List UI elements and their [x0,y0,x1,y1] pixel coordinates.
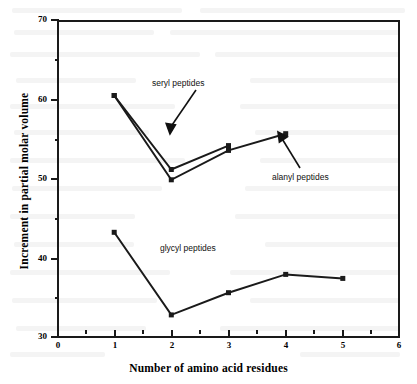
series-label-alanyl: alanyl peptides [272,172,329,182]
series-label-glycyl: glycyl peptides [160,243,216,253]
seryl-arrow-line [170,90,196,128]
y-axis-title: Increment in partial molar volume [18,51,30,311]
alanyl-arrow-line [281,137,300,168]
seryl-arrow-head [166,124,175,134]
annotation-arrow-layer [0,0,417,384]
x-axis-title: Number of amino acid residues [0,362,417,374]
series-label-seryl: seryl peptides [152,78,204,88]
chart-figure: 70 60 50 40 30 0 1 2 3 4 5 6 seryl pepti… [0,0,417,384]
alanyl-arrow-head [278,132,287,142]
